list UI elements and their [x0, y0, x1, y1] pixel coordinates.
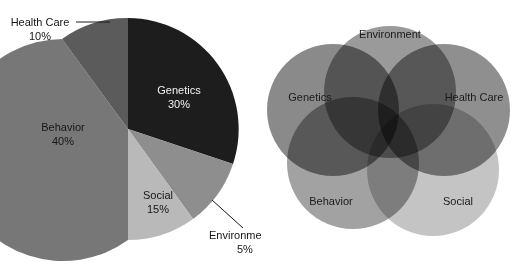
- venn-diagram-svg: Environment Genetics Health Care Behavio…: [261, 0, 521, 264]
- venn-label-genetics: Genetics: [288, 91, 332, 103]
- pie-label-genetics: Genetics: [157, 84, 201, 96]
- leader-line-environment: [212, 200, 243, 228]
- venn-label-environment: Environment: [359, 28, 421, 40]
- pie-value-environment: 5%: [237, 243, 253, 255]
- pie-value-health-care: 10%: [29, 30, 51, 42]
- pie-label-environment: Environment: [209, 229, 261, 241]
- venn-diagram-panel: Environment Genetics Health Care Behavio…: [261, 0, 521, 264]
- figure-container: Genetics 30% Social 15% Behavior 40% Hea…: [0, 0, 521, 264]
- venn-label-behavior: Behavior: [309, 195, 353, 207]
- venn-circle-social[interactable]: [367, 104, 499, 236]
- venn-label-health-care: Health Care: [445, 91, 504, 103]
- pie-chart-svg: Genetics 30% Social 15% Behavior 40% Hea…: [0, 0, 261, 264]
- pie-value-behavior: 40%: [52, 135, 74, 147]
- pie-label-social: Social: [143, 189, 173, 201]
- venn-label-social: Social: [443, 195, 473, 207]
- pie-chart-panel: Genetics 30% Social 15% Behavior 40% Hea…: [0, 0, 261, 264]
- pie-label-health-care: Health Care: [11, 16, 70, 28]
- pie-label-behavior: Behavior: [41, 121, 85, 133]
- pie-value-social: 15%: [147, 203, 169, 215]
- pie-value-genetics: 30%: [168, 98, 190, 110]
